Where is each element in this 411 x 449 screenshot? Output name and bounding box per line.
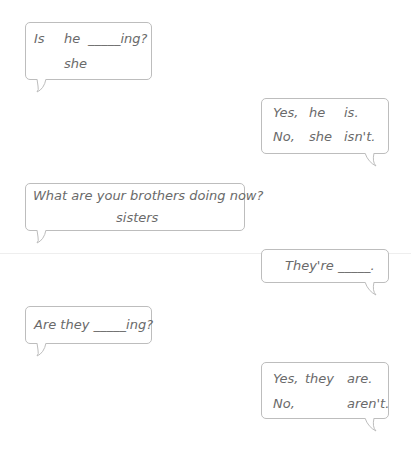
text-they: they	[305, 371, 334, 386]
text-he: he	[64, 31, 80, 46]
text-no: No,	[273, 129, 295, 144]
bubble-tail-icon	[362, 417, 382, 433]
text-he: he	[309, 105, 325, 120]
text-theyre-blank: They're _____.	[285, 258, 375, 273]
speech-bubble-answer-2: They're _____.	[261, 249, 389, 283]
bubble-tail-icon	[362, 152, 382, 168]
bubble-tail-icon	[34, 78, 54, 94]
bubble-tail-icon	[362, 281, 382, 297]
bubble-tail-icon	[34, 229, 54, 245]
text-arent: aren't.	[347, 396, 389, 411]
text-are-they-blank-ing: Are they _____ing?	[34, 317, 153, 332]
text-are: are.	[347, 371, 372, 386]
text-question: What are your brothers doing now?	[33, 188, 263, 203]
text-is: is.	[344, 105, 359, 120]
text-sisters: sisters	[116, 210, 158, 225]
speech-bubble-question-2: What are your brothers doing now? sister…	[25, 183, 245, 231]
text-is: Is	[34, 31, 45, 46]
text-she: she	[64, 56, 87, 71]
speech-bubble-question-3: Are they _____ing?	[25, 306, 152, 344]
text-yes: Yes,	[273, 105, 298, 120]
text-blank-ing: _____ing?	[88, 31, 148, 46]
bubble-tail-icon	[34, 342, 54, 358]
text-no: No,	[273, 396, 295, 411]
text-she: she	[309, 129, 332, 144]
speech-bubble-answer-1: Yes, he is. No, she isn't.	[261, 98, 389, 154]
text-isnt: isn't.	[344, 129, 375, 144]
speech-bubble-question-1: Is he _____ing? she	[25, 22, 152, 80]
text-yes: Yes,	[273, 371, 298, 386]
speech-bubble-answer-3: Yes, they are. No, aren't.	[261, 362, 389, 419]
